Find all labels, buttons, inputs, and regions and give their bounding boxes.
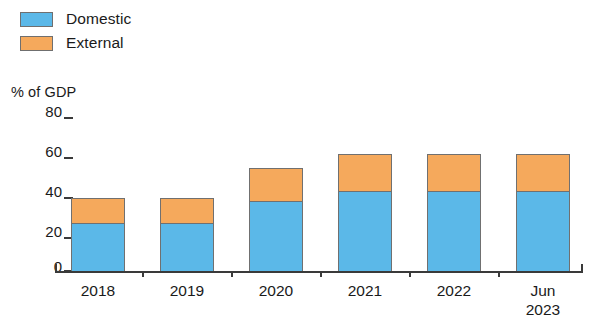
chart-container: Domestic External % of GDP 80 60 40 20 0: [0, 0, 590, 321]
x-axis-label-line1: Jun: [488, 281, 590, 300]
x-tick-1: [231, 272, 233, 277]
bar-segment-external: [516, 154, 570, 192]
bar-segment-domestic: [338, 191, 392, 273]
bar-2019: [160, 198, 214, 272]
bar-segment-domestic: [516, 191, 570, 273]
x-tick-0: [142, 272, 144, 277]
x-axis-label-line2: 2023: [488, 300, 590, 319]
bar-2018: [71, 198, 125, 272]
bar-2021: [338, 154, 392, 272]
bar-segment-external: [249, 168, 303, 202]
bar-2022: [427, 154, 481, 272]
y-tick-label-40: 40: [2, 183, 62, 201]
axis-right-cap: [581, 264, 583, 273]
y-tick-dash-60: [64, 157, 73, 159]
y-tick-label-80: 80: [2, 103, 62, 121]
bar-2020: [249, 168, 303, 272]
bar-segment-external: [427, 154, 481, 192]
y-tick-label-20: 20: [2, 223, 62, 241]
x-axis-label-jun-2023: Jun2023: [488, 281, 590, 319]
bar-segment-domestic: [160, 223, 214, 273]
bar-segment-external: [160, 198, 214, 224]
y-tick-label-60: 60: [2, 143, 62, 161]
bar-segment-external: [71, 198, 125, 224]
bar-segment-domestic: [71, 223, 125, 273]
y-tick-dash-80: [64, 117, 73, 119]
bar-segment-domestic: [249, 201, 303, 273]
x-tick-3: [409, 272, 411, 277]
y-tick-label-0: 0: [2, 258, 62, 276]
bar-segment-external: [338, 154, 392, 192]
bar-jun-2023: [516, 154, 570, 272]
x-tick-2: [320, 272, 322, 277]
x-tick-4: [498, 272, 500, 277]
plot-area: 80 60 40 20 0 20182019202020212022Jun202…: [0, 0, 590, 321]
bar-segment-domestic: [427, 191, 481, 273]
